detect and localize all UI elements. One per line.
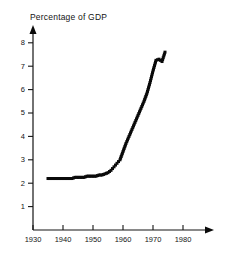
y-tick-label: 3 — [21, 155, 25, 164]
chart-container: Percentage of GDP 12345678 1930194019501… — [0, 0, 245, 264]
x-tick-group: 193019401950196019701980 — [25, 225, 192, 244]
x-axis-arrowhead — [205, 227, 214, 234]
x-tick-label: 1970 — [145, 235, 162, 244]
chart-plot-area: 12345678 193019401950196019701980 — [0, 0, 245, 264]
data-point — [164, 51, 167, 54]
y-tick-label: 1 — [21, 202, 25, 211]
y-tick-label: 6 — [21, 85, 25, 94]
y-tick-label: 7 — [21, 62, 25, 71]
data-series-percentage-of-gdp — [47, 51, 167, 180]
x-tick-label: 1940 — [55, 235, 72, 244]
x-tick-label: 1980 — [175, 235, 192, 244]
y-tick-group: 12345678 — [21, 38, 33, 211]
y-axis-arrowhead — [30, 25, 37, 34]
x-tick-label: 1950 — [85, 235, 102, 244]
y-tick-label: 8 — [21, 38, 25, 47]
x-axis: 193019401950196019701980 — [25, 225, 214, 244]
y-tick-label: 2 — [21, 179, 25, 188]
x-tick-label: 1960 — [115, 235, 132, 244]
x-tick-label: 1930 — [25, 235, 42, 244]
y-tick-label: 5 — [21, 108, 25, 117]
y-axis: 12345678 — [21, 25, 37, 230]
y-tick-label: 4 — [21, 132, 25, 141]
